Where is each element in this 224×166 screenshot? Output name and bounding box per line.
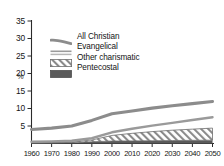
y-axis-tick-label: 35 [2, 16, 25, 26]
chart-container: 3530252015105 % 196019701980199020002010… [0, 0, 223, 166]
thick-line-swatch [50, 32, 72, 40]
y-axis-tick-label: 15 [2, 86, 25, 96]
legend-label-evangelical: Evangelical [77, 42, 118, 51]
legend-item-pentecostal[interactable]: Pentecostal [50, 63, 170, 74]
legend-item-other-charismatic[interactable]: Other charismatic [50, 52, 170, 63]
legend-label-pentecostal: Pentecostal [77, 63, 119, 72]
y-axis-tick-label: 30 [2, 33, 25, 43]
series-line-all-christian [32, 102, 213, 130]
solid-fill-swatch [50, 64, 72, 72]
hatch-swatch [50, 53, 72, 61]
x-axis-tick-label: 2050 [200, 149, 224, 158]
legend-item-evangelical[interactable]: Evangelical [50, 42, 170, 53]
legend-item-all-christian[interactable]: All Christian [50, 31, 170, 42]
chart-plot-area [0, 0, 223, 166]
legend-label-all-christian: All Christian [77, 32, 119, 41]
y-axis-tick-label: 25 [2, 51, 25, 61]
y-axis-tick-label: 5 [2, 121, 25, 131]
y-axis-tick-label: 10 [2, 103, 25, 113]
chart-legend: All Christian Evangelical Other charisma… [50, 31, 170, 73]
y-axis-ticks [28, 21, 32, 126]
thin-lines-swatch [50, 43, 72, 51]
legend-label-other-charismatic: Other charismatic [77, 53, 139, 62]
y-axis-unit-label: % [17, 72, 24, 81]
